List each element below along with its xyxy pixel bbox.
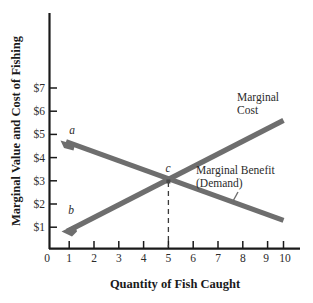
y-tick-label-2: $2 [34, 198, 46, 210]
equilibrium-point-marker [166, 180, 170, 184]
y-tick-label-5: $5 [34, 128, 46, 140]
x-tick-label-6: 6 [190, 252, 196, 264]
point-label-a: a [69, 124, 75, 136]
point-label-c: c [165, 162, 170, 174]
x-axis-title: Quantity of Fish Caught [110, 277, 241, 291]
y-tick-label-7: $7 [34, 82, 46, 94]
marginal-benefit-label-line1: Marginal Benefit [196, 164, 275, 177]
marginal-cost-label-line2: Cost [237, 104, 259, 116]
x-tick-label-0: 0 [44, 252, 50, 264]
chart-figure: $7 $6 $5 $4 $3 $2 $1 0 1 2 3 4 [0, 0, 313, 303]
x-tick-label-8: 8 [240, 252, 246, 264]
y-tick-label-6: $6 [34, 105, 46, 117]
x-tick-label-1: 1 [66, 252, 72, 264]
y-tick-label-4: $4 [34, 152, 46, 164]
marginal-benefit-label-line2: (Demand) [196, 177, 243, 190]
x-tick-label-10: 10 [279, 252, 291, 264]
y-axis-title: Marginal Value and Cost of Fishing [9, 35, 23, 226]
y-tick-label-1: $1 [34, 221, 46, 233]
x-tick-label-7: 7 [215, 252, 221, 264]
x-tick-label-3: 3 [116, 252, 122, 264]
y-tick-label-3: $3 [34, 175, 46, 187]
x-tick-label-4: 4 [141, 252, 147, 264]
marginal-cost-label-line1: Marginal [237, 91, 279, 104]
x-tick-label-5: 5 [166, 252, 172, 264]
fishing-marginal-cost-benefit-chart: $7 $6 $5 $4 $3 $2 $1 0 1 2 3 4 [0, 0, 313, 303]
x-tick-label-9: 9 [263, 252, 269, 264]
point-label-b: b [68, 204, 74, 216]
x-tick-label-2: 2 [91, 252, 97, 264]
